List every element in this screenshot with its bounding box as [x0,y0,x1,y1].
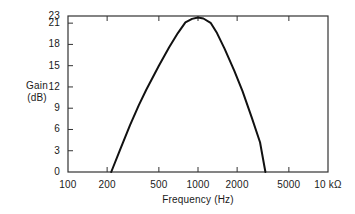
x-tick-label-10000: 10 kΩ [308,179,348,190]
y-tick-label-18: 18 [38,38,60,49]
x-tick-label-5000: 5000 [269,179,309,190]
x-tick-label-2000: 2000 [217,179,257,190]
x-tick-label-200: 200 [87,179,127,190]
plot-area-border [68,16,328,172]
y-tick-label-23: 23 [38,10,60,21]
y-tick-label-6: 6 [38,123,60,134]
x-tick-label-1000: 1000 [178,179,218,190]
y-tick-label-3: 3 [38,145,60,156]
x-tick-label-100: 100 [48,179,88,190]
y-tick-label-9: 9 [38,102,60,113]
y-tick-label-12: 12 [38,81,60,92]
x-tick-label-500: 500 [139,179,179,190]
y-tick-label-15: 15 [38,60,60,71]
plot-frame [68,16,328,172]
x-axis-title: Frequency (Hz) [68,194,328,205]
y-tick-label-0: 0 [38,166,60,177]
gain-vs-frequency-chart: Gain (dB) Frequency (Hz) 03691215182123 … [0,0,355,214]
